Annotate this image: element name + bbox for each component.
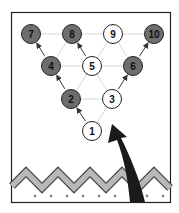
lane-dot <box>34 195 37 198</box>
pin-1: 1 <box>83 122 102 141</box>
pin-10: 10 <box>145 25 164 44</box>
pin-label: 1 <box>89 126 95 137</box>
pin-3: 3 <box>103 90 122 109</box>
pin-label: 3 <box>109 94 115 105</box>
pin-label: 9 <box>110 29 116 40</box>
pin-7: 7 <box>22 25 41 44</box>
lane-dot <box>162 195 165 198</box>
pin-label: 5 <box>89 61 95 72</box>
pin-label: 7 <box>28 29 34 40</box>
lane-dot <box>66 195 69 198</box>
pin-label: 8 <box>69 29 75 40</box>
lane-dot <box>146 195 149 198</box>
pin-6: 6 <box>124 57 143 76</box>
pin-label: 10 <box>148 29 160 40</box>
pin-2: 2 <box>62 90 81 109</box>
bowling-pin-diagram: 12345678910 <box>0 0 179 213</box>
pin-8: 8 <box>63 25 82 44</box>
lane-dot <box>98 195 101 198</box>
pin-label: 4 <box>48 61 54 72</box>
pin-9: 9 <box>104 25 123 44</box>
pin-label: 6 <box>130 61 136 72</box>
lane-dot <box>82 195 85 198</box>
pin-4: 4 <box>42 57 61 76</box>
lane-dot <box>114 195 117 198</box>
pin-5: 5 <box>83 57 102 76</box>
lane-dot <box>50 195 53 198</box>
pin-label: 2 <box>68 94 74 105</box>
